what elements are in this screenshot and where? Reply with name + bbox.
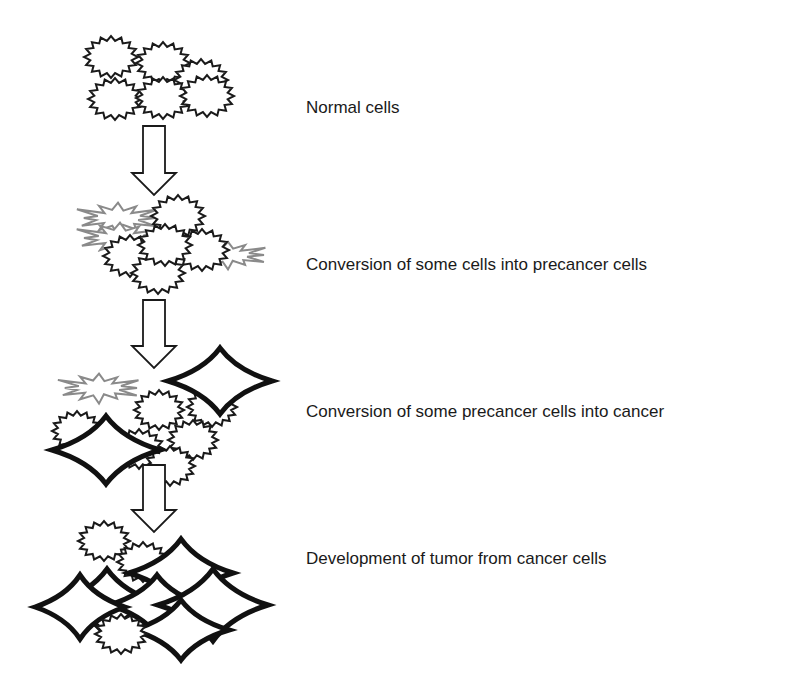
stage-label-cancer: Conversion of some precancer cells into … [306,402,664,422]
normal-cell-icon [95,614,147,654]
down-arrow-icon [132,300,176,368]
arrow-shape [132,126,176,195]
stage-precancer-cells [77,195,266,294]
stage-label-normal: Normal cells [306,98,400,118]
normal-cell-icon [180,75,234,117]
cancer-cell-icon [168,348,272,414]
stage-tumor-cells [35,521,268,660]
normal-cell-icon [88,78,142,120]
down-arrow-icon [132,126,176,195]
normal-cell-icon [84,36,138,78]
normal-cell-icon [138,224,192,266]
arrow-shape [132,300,176,368]
stage-label-precancer: Conversion of some cells into precancer … [306,255,647,275]
normal-cell-icon [134,390,184,430]
precancer-cell-icon [58,374,139,404]
stage-label-tumor: Development of tumor from cancer cells [306,549,606,569]
stage-normal-cells [84,36,234,120]
